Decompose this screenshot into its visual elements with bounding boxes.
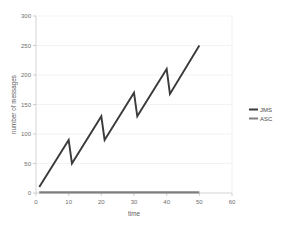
y-tick-label-100: 100 (21, 131, 32, 137)
x-tick-label-10: 10 (65, 199, 72, 205)
series-line-jms (39, 46, 199, 188)
gridlines (36, 16, 232, 164)
y-tick-label-150: 150 (21, 102, 32, 108)
x-tick-label-20: 20 (98, 199, 105, 205)
x-tick-label-60: 60 (229, 199, 236, 205)
x-tick-label-30: 30 (131, 199, 138, 205)
y-tick-label-200: 200 (21, 72, 32, 78)
chart-canvas: 300 250 200 150 100 50 0 0 10 20 30 40 5… (0, 0, 289, 227)
y-tick-label-300: 300 (21, 13, 32, 19)
line-chart: 300 250 200 150 100 50 0 0 10 20 30 40 5… (0, 0, 289, 227)
y-axis-title: number of messages (10, 75, 18, 134)
x-axis-title: time (128, 210, 140, 217)
y-tick-label-50: 50 (24, 161, 31, 167)
y-tick-label-250: 250 (21, 43, 32, 49)
legend-label-asc[interactable]: ASC (260, 116, 273, 122)
x-tick-label-50: 50 (196, 199, 203, 205)
x-tick-label-0: 0 (34, 199, 38, 205)
chart-legend: JMS ASC (249, 107, 273, 122)
y-tick-marks (33, 16, 36, 193)
y-tick-label-0: 0 (28, 190, 32, 196)
legend-label-jms[interactable]: JMS (260, 107, 272, 113)
x-tick-label-40: 40 (163, 199, 170, 205)
